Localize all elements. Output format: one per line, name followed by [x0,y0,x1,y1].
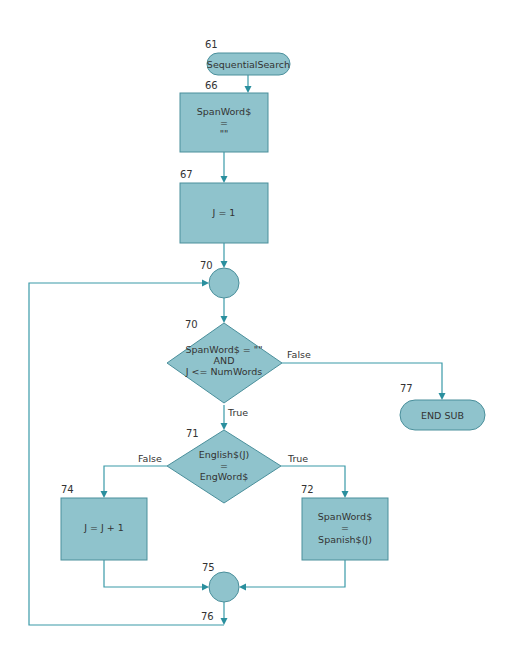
edge-70d-77-false [282,363,446,400]
node-72-text-3: Spanish$(J) [318,534,372,545]
node-70d-text-2: AND [214,355,235,366]
node-71-text-3: EngWord$ [200,471,249,482]
node-70d-text-1: SpanWord$ = "" [185,344,262,355]
node-66-text-3: "" [220,128,229,139]
edge-label-false-70: False [287,349,311,360]
line-number-72: 72 [301,484,314,495]
edge-72-75 [239,560,345,591]
line-number-71: 71 [186,428,199,439]
node-70-decision: 70 SpanWord$ = "" AND J <= NumWords Fals… [167,319,311,418]
node-70d-text-3: J <= NumWords [185,366,263,377]
edge-61-66 [245,75,252,93]
node-61-text: SequentialSearch [207,59,290,70]
node-66-text-2: = [220,117,228,128]
edge-74-75 [104,560,209,591]
edge-66-67 [221,152,228,183]
node-71-text-1: English$(J) [199,449,250,460]
line-number-70b: 70 [185,319,198,330]
edge-70c-70d [221,298,228,323]
node-77-text: END SUB [421,410,464,421]
flowchart: 61 SequentialSearch 66 SpanWord$ = "" 67… [0,0,510,650]
line-number-61: 61 [205,39,218,50]
line-number-75: 75 [202,562,215,573]
edge-70d-71-true [221,405,228,430]
node-70-connector: 70 [200,260,239,298]
edge-71-74-false [101,466,168,498]
line-number-66: 66 [205,80,218,91]
line-number-77: 77 [400,383,413,394]
edge-67-70c [221,243,228,268]
node-75-connector: 75 [202,562,239,602]
line-number-74: 74 [61,484,74,495]
line-number-70a: 70 [200,260,213,271]
edge-71-72-true [281,466,349,498]
node-72-text-1: SpanWord$ [318,511,372,522]
edge-label-false-71: False [138,453,162,464]
line-number-67: 67 [180,169,193,180]
node-72-text-2: = [341,522,349,533]
line-number-76: 76 [201,611,214,622]
node-74-text: J = J + 1 [83,522,124,533]
node-67-text: J = 1 [212,207,236,218]
edge-label-true-71: True [287,453,308,464]
node-66-text-1: SpanWord$ [197,106,251,117]
edge-label-true-70: True [227,407,248,418]
node-61-start-terminal: 61 SequentialSearch [205,39,290,75]
node-71-text-2: = [220,460,228,471]
node-66-process: 66 SpanWord$ = "" [180,80,268,152]
